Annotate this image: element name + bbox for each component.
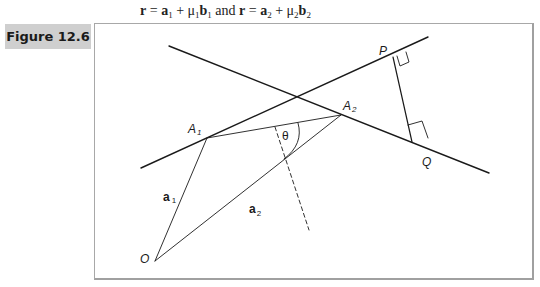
label-vector-a1: a1 [163,190,177,205]
label-o: O [140,252,149,266]
vector-a2 [155,115,341,261]
segment-a1-a2 [207,115,341,138]
segment-pq [393,57,412,142]
label-theta: θ [282,129,289,143]
label-q: Q [422,155,431,169]
dashed-projection [275,127,309,230]
label-vector-a2: a2 [249,202,262,218]
label-a2-point: A2 [342,99,357,114]
skew-lines-diagram: A1 A2 P Q O a1 a2 θ [0,0,540,287]
label-p: P [379,44,387,58]
label-a1-point: A1 [187,122,201,137]
right-angle-p [397,52,409,66]
line-2 [169,46,489,173]
